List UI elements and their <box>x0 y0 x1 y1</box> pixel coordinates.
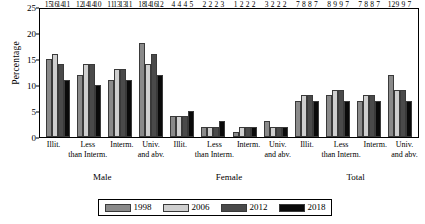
category-label-line2: and abv. <box>390 150 419 160</box>
category-label-line1: Less <box>195 140 234 150</box>
group-name-label: Female <box>166 172 293 182</box>
bar-value-label: 2 <box>283 1 287 9</box>
bar-item: 2 <box>251 9 257 137</box>
bar-2018: 5 <box>188 111 194 137</box>
bar-value-label: 12 <box>156 1 164 9</box>
legend-swatch <box>221 204 247 212</box>
legend-item-2012[interactable]: 2012 <box>221 203 268 212</box>
bar-2018: 11 <box>64 80 70 137</box>
bar-value-label: 1 <box>234 1 238 9</box>
category-label-line2: than Interm. <box>322 150 361 160</box>
bar-item: 11 <box>64 9 70 137</box>
category-label-line1: Interm. <box>107 140 136 150</box>
category-label: Illit. <box>166 140 195 174</box>
bar-value-label: 11 <box>63 1 70 9</box>
bar-2018: 7 <box>406 101 412 137</box>
legend-swatch <box>163 204 189 212</box>
category-label-group: Illit.Lessthan Interm.Interm.Univ.and ab… <box>166 140 293 174</box>
legend-item-2018[interactable]: 2018 <box>279 203 326 212</box>
category-label: Univ.and abv. <box>136 140 165 174</box>
group-name-label: Male <box>39 172 166 182</box>
bar-2018: 11 <box>126 80 132 137</box>
bar-2018: 2 <box>282 127 288 137</box>
bar-group-male: 15161411121414101113131118141612 <box>42 9 167 137</box>
bar-value-label: 2 <box>271 1 275 9</box>
bar-item: 7 <box>406 9 412 137</box>
bar-item: 3 <box>219 9 225 137</box>
category-label-line1: Univ. <box>263 140 292 150</box>
category-label-line2: than Interm. <box>68 150 107 160</box>
bar-value-label: 4 <box>171 1 175 9</box>
legend: 1998200620122018 <box>98 199 332 216</box>
bar-2018: 7 <box>344 101 350 137</box>
bar-subgroup: 7887 <box>292 9 322 137</box>
category-label-line1: Illit. <box>39 140 68 150</box>
bar-group-female: 4445222312223222 <box>167 9 292 137</box>
bar-value-label: 7 <box>296 1 300 9</box>
legend-label: 2006 <box>192 203 210 212</box>
category-label-line1: Illit. <box>166 140 195 150</box>
bar-value-label: 9 <box>339 1 343 9</box>
bars-container: 1516141112141410111313111814161244452223… <box>40 9 418 137</box>
category-label-line1: Less <box>322 140 361 150</box>
category-label-line1: Univ. <box>136 140 165 150</box>
bar-subgroup: 12997 <box>385 9 415 137</box>
y-tick-label: 0 <box>8 134 36 143</box>
category-label: Lessthan Interm. <box>68 140 107 174</box>
bar-value-label: 3 <box>221 1 225 9</box>
bar-value-label: 10 <box>94 1 102 9</box>
y-tick-label: 25 <box>8 4 36 13</box>
category-label: Illit. <box>292 140 321 174</box>
bar-value-label: 12 <box>388 1 396 9</box>
bar-subgroup: 11131311 <box>105 9 135 137</box>
category-label: Illit. <box>39 140 68 174</box>
bar-value-label: 4 <box>177 1 181 9</box>
bar-subgroup: 15161411 <box>43 9 73 137</box>
bar-subgroup: 12141410 <box>74 9 104 137</box>
bar-item: 7 <box>375 9 381 137</box>
bar-item: 5 <box>188 9 194 137</box>
bar-2018: 10 <box>95 85 101 137</box>
y-tick-label: 20 <box>8 30 36 39</box>
category-label-line1: Interm. <box>234 140 263 150</box>
legend-item-2006[interactable]: 2006 <box>163 203 210 212</box>
legend-swatch <box>279 204 305 212</box>
bar-value-label: 8 <box>370 1 374 9</box>
category-label-line1: Interm. <box>361 140 390 150</box>
bar-value-label: 11 <box>125 1 132 9</box>
bar-value-label: 7 <box>345 1 349 9</box>
bar-item: 10 <box>95 9 101 137</box>
bar-value-label: 2 <box>246 1 250 9</box>
bar-value-label: 7 <box>408 1 412 9</box>
bar-value-label: 3 <box>265 1 269 9</box>
bar-subgroup: 18141612 <box>136 9 166 137</box>
bar-subgroup: 8997 <box>323 9 353 137</box>
y-axis: Percentage 0510152025 <box>0 0 36 224</box>
category-label-line1: Illit. <box>292 140 321 150</box>
bar-chart: Percentage 0510152025 151614111214141011… <box>0 0 425 224</box>
group-name-label: Total <box>292 172 419 182</box>
bar-value-label: 8 <box>364 1 368 9</box>
bar-value-label: 2 <box>252 1 256 9</box>
legend-item-1998[interactable]: 1998 <box>105 203 152 212</box>
y-tick-label: 15 <box>8 56 36 65</box>
bar-value-label: 2 <box>277 1 281 9</box>
bar-2018: 2 <box>251 127 257 137</box>
bar-item: 11 <box>126 9 132 137</box>
bar-value-label: 2 <box>209 1 213 9</box>
legend-swatch <box>105 204 131 212</box>
bar-item: 12 <box>157 9 163 137</box>
category-label: Univ.and abv. <box>390 140 419 174</box>
y-tick-label: 10 <box>8 82 36 91</box>
category-label: Lessthan Interm. <box>322 140 361 174</box>
bar-value-label: 2 <box>203 1 207 9</box>
bar-value-label: 4 <box>183 1 187 9</box>
group-axis: MaleFemaleTotal <box>39 172 419 182</box>
category-axis: Illit.Lessthan Interm.Interm.Univ.and ab… <box>39 140 419 174</box>
bar-2018: 7 <box>313 101 319 137</box>
category-label-line1: Univ. <box>390 140 419 150</box>
bar-2018: 7 <box>375 101 381 137</box>
category-label: Interm. <box>234 140 263 174</box>
category-label: Interm. <box>107 140 136 174</box>
bar-subgroup: 1222 <box>230 9 260 137</box>
